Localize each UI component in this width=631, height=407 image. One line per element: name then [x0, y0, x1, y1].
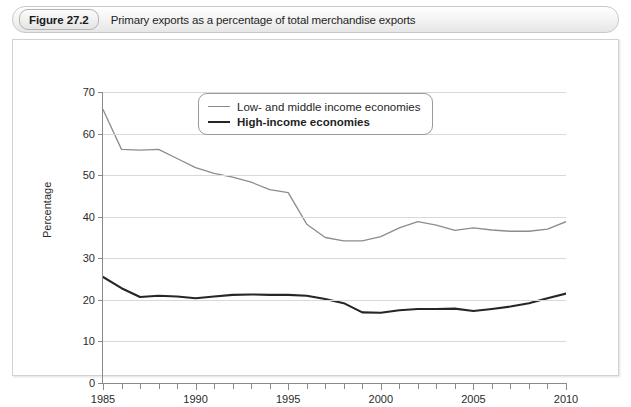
series-canvas: [103, 92, 566, 383]
gridline: [103, 341, 566, 342]
y-axis-tick: [98, 341, 103, 342]
legend-swatch-line-icon: [208, 106, 230, 107]
x-axis-tick: [418, 384, 419, 389]
x-axis-tick: [436, 384, 437, 389]
figure-frame: Percentage 010203040506070 1985199019952…: [12, 39, 619, 376]
x-axis-tick-label: 1990: [183, 393, 207, 405]
gridline: [103, 175, 566, 176]
y-axis-tick-label: 0: [89, 377, 95, 389]
x-axis-tick: [381, 384, 382, 390]
figure-caption-bar: Figure 27.2 Primary exports as a percent…: [12, 6, 619, 33]
legend-swatch-line-icon: [208, 121, 230, 123]
x-axis-tick: [547, 384, 548, 389]
plot-area: 010203040506070: [103, 92, 566, 383]
x-axis-tick: [214, 384, 215, 389]
gridline: [103, 217, 566, 218]
x-axis-tick: [473, 384, 474, 390]
y-axis-tick: [98, 217, 103, 218]
y-axis-tick: [98, 92, 103, 93]
x-axis-tick: [251, 384, 252, 389]
y-axis-tick-label: 20: [83, 294, 95, 306]
y-axis-tick: [98, 300, 103, 301]
x-axis-tick-label: 1995: [276, 393, 300, 405]
y-axis-tick-label: 40: [83, 211, 95, 223]
x-axis-tick: [529, 384, 530, 389]
x-axis-tick: [122, 384, 123, 389]
y-axis-tick-label: 70: [83, 86, 95, 98]
x-axis-tick: [399, 384, 400, 389]
x-axis-tick: [325, 384, 326, 389]
figure-number-badge: Figure 27.2: [19, 9, 99, 30]
y-axis-tick: [98, 258, 103, 259]
legend-label: High-income economies: [237, 116, 370, 128]
x-axis-tick: [196, 384, 197, 390]
x-axis-tick: [288, 384, 289, 390]
x-axis-tick: [159, 384, 160, 389]
legend-item-high-income: High-income economies: [208, 114, 420, 129]
x-axis-tick: [140, 384, 141, 389]
x-axis-tick: [344, 384, 345, 389]
y-axis-tick-label: 50: [83, 169, 95, 181]
x-axis-tick: [103, 384, 104, 390]
y-axis-tick-label: 10: [83, 335, 95, 347]
series-line: [103, 277, 566, 313]
figure-caption-text: Primary exports as a percentage of total…: [111, 14, 416, 26]
legend-item-low-and-middle-income: Low- and middle income economies: [208, 99, 420, 114]
y-axis-title: Percentage: [41, 182, 53, 238]
x-axis-tick: [233, 384, 234, 389]
x-axis-tick: [362, 384, 363, 389]
legend-label: Low- and middle income economies: [237, 101, 420, 113]
x-axis-tick: [455, 384, 456, 389]
x-axis-tick: [492, 384, 493, 389]
x-axis-tick-label: 2005: [461, 393, 485, 405]
y-axis-tick: [98, 175, 103, 176]
x-axis-tick: [177, 384, 178, 389]
x-axis-tick: [307, 384, 308, 389]
x-axis-tick: [510, 384, 511, 389]
y-axis-tick: [98, 134, 103, 135]
x-axis-tick: [566, 384, 567, 390]
chart-legend: Low- and middle income economies High-in…: [198, 93, 433, 135]
x-axis-tick-label: 2000: [369, 393, 393, 405]
x-axis-tick: [270, 384, 271, 389]
x-axis-ticks: 198519901995200020052010: [103, 384, 566, 407]
y-axis-tick-label: 30: [83, 252, 95, 264]
x-axis-tick-label: 2010: [554, 393, 578, 405]
x-axis-tick-label: 1985: [91, 393, 115, 405]
gridline: [103, 300, 566, 301]
y-axis-tick-label: 60: [83, 128, 95, 140]
gridline: [103, 258, 566, 259]
